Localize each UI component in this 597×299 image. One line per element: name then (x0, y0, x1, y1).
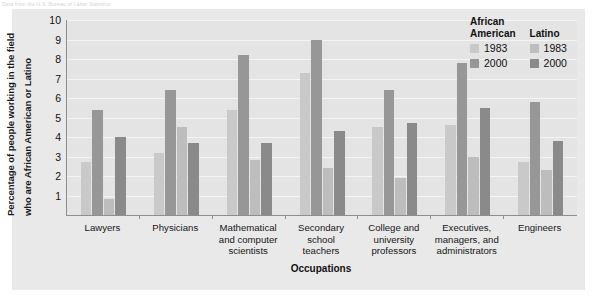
bar (154, 153, 165, 215)
bar-group (67, 20, 140, 215)
bar (480, 108, 491, 215)
bar (395, 178, 406, 215)
bar (372, 127, 383, 215)
legend-entry[interactable]: 1983 (470, 42, 516, 54)
label-line: professors (358, 245, 429, 257)
label-line: Engineers (504, 222, 575, 234)
label-line: university (358, 234, 429, 246)
bar-group (286, 20, 359, 215)
chart-figure: Data from the U.S. Bureau of Labor Stati… (0, 0, 597, 299)
y-axis-tick: 8 (37, 53, 61, 65)
label-line: Mathematical (213, 222, 284, 234)
legend-swatch-icon (470, 44, 479, 53)
label-line: Physicians (140, 222, 211, 234)
y-axis-tick: 4 (37, 131, 61, 143)
x-axis-title: Occupations (66, 263, 576, 274)
bar (468, 157, 479, 216)
bar (334, 131, 345, 215)
y-axis-tick: 7 (37, 73, 61, 85)
bar (323, 168, 334, 215)
label-line: teachers (286, 245, 357, 257)
bar (553, 141, 564, 215)
y-axis-tick: 3 (37, 151, 61, 163)
bar-group (140, 20, 213, 215)
bar-group (358, 20, 431, 215)
bar (530, 102, 541, 215)
axis-tick-divider (430, 215, 431, 219)
label-line: College and (358, 222, 429, 234)
legend: AfricanAmerican19832000 Latino19832000 (470, 16, 567, 69)
axis-tick-divider (212, 215, 213, 219)
bar (238, 55, 249, 215)
legend-entry[interactable]: 1983 (530, 42, 567, 54)
bar (104, 199, 115, 215)
bar (250, 160, 261, 215)
bar (165, 90, 176, 215)
axis-tick-divider (357, 215, 358, 219)
bar (227, 110, 238, 215)
y-axis-tick: 9 (37, 34, 61, 46)
legend-header: Latino (530, 28, 567, 40)
y-axis-tick: 10 (37, 14, 61, 26)
axis-tick-divider (139, 215, 140, 219)
bar-group (213, 20, 286, 215)
y-axis-tick: 6 (37, 92, 61, 104)
legend-label: 2000 (544, 57, 567, 69)
bar (445, 125, 456, 215)
top-note: Data from the U.S. Bureau of Labor Stati… (0, 0, 597, 9)
y-axis-title-line1: Percentage of people working in the fiel… (5, 33, 16, 216)
legend-header: American (470, 28, 516, 40)
bar (384, 90, 395, 215)
bar (177, 127, 188, 215)
label-line: administrators (431, 245, 502, 257)
bar (188, 143, 199, 215)
legend-label: 1983 (484, 42, 507, 54)
legend-entry[interactable]: 2000 (470, 57, 516, 69)
legend-header: African (470, 16, 516, 28)
axis-tick-divider (503, 215, 504, 219)
legend-label: 2000 (484, 57, 507, 69)
label-line: Executives, (431, 222, 502, 234)
legend-swatch-icon (470, 59, 479, 68)
legend-swatch-icon (530, 59, 539, 68)
axis-tick-divider (285, 215, 286, 219)
legend-column: AfricanAmerican19832000 (470, 16, 516, 69)
label-line: and computer (213, 234, 284, 246)
legend-column: Latino19832000 (530, 16, 567, 69)
legend-header (530, 16, 567, 28)
bar (81, 162, 92, 215)
y-axis-tick: 1 (37, 190, 61, 202)
legend-swatch-icon (530, 44, 539, 53)
label-line: scientists (213, 245, 284, 257)
label-line: Lawyers (67, 222, 138, 234)
legend-entry[interactable]: 2000 (530, 57, 567, 69)
label-line: school (286, 234, 357, 246)
label-line: managers, and (431, 234, 502, 246)
y-axis-title-line2: who are African American or Latino (22, 58, 33, 216)
label-line: Secondary (286, 222, 357, 234)
bar (92, 110, 103, 215)
bar (115, 137, 126, 215)
y-axis-tick: 2 (37, 170, 61, 182)
bar (541, 170, 552, 215)
bar (261, 143, 272, 215)
bar (300, 73, 311, 215)
bar (457, 63, 468, 215)
bar (311, 40, 322, 216)
bar (518, 162, 529, 215)
y-axis-tick: 5 (37, 112, 61, 124)
legend-label: 1983 (544, 42, 567, 54)
bar (407, 123, 418, 215)
